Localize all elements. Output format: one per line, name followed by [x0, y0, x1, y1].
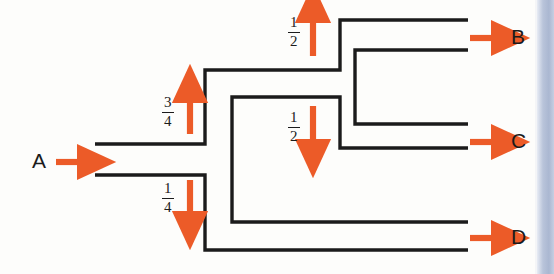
outlet-label-d: D	[511, 226, 526, 247]
pipe-network-svg	[0, 0, 554, 274]
inlet-label-a: A	[32, 150, 46, 171]
pipe-walls	[95, 20, 468, 250]
fraction-numerator: 3	[162, 95, 174, 111]
fraction-numerator: 1	[288, 110, 300, 126]
fraction-label-one-half-b: 1 2	[288, 15, 300, 50]
fraction-label-three-quarters: 3 4	[162, 95, 174, 130]
page-edge-shadow	[537, 0, 554, 274]
diagram-canvas: A B C D 3 4 1 4 1 2 1 2	[0, 0, 554, 274]
fraction-denominator: 2	[288, 34, 300, 50]
outlet-label-b: B	[511, 26, 525, 47]
fraction-numerator: 1	[288, 15, 300, 31]
fraction-label-one-half-c: 1 2	[288, 110, 300, 145]
wall-bc-divider	[355, 50, 468, 124]
fraction-label-one-quarter: 1 4	[162, 181, 174, 216]
outlet-label-c: C	[511, 130, 526, 151]
fraction-denominator: 4	[162, 114, 174, 130]
fraction-denominator: 2	[288, 129, 300, 145]
wall-center-island	[232, 97, 468, 222]
fraction-numerator: 1	[162, 181, 174, 197]
fraction-denominator: 4	[162, 200, 174, 216]
wall-inlet-bottom	[95, 175, 468, 250]
